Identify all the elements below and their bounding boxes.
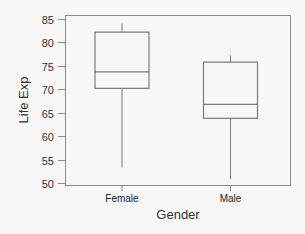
- box-plot-chart: 5055606570758085 FemaleMale Life Exp Gen…: [0, 0, 305, 234]
- x-axis-title: Gender: [156, 207, 200, 222]
- iqr-box: [95, 32, 149, 88]
- box-female: [95, 24, 149, 168]
- x-tick-label: Male: [220, 193, 242, 204]
- y-tick-label: 50: [42, 178, 54, 190]
- x-tick-label: Female: [105, 193, 139, 204]
- y-axis-title: Life Exp: [16, 77, 31, 124]
- y-tick-label: 80: [42, 37, 54, 49]
- iqr-box: [204, 62, 258, 118]
- boxes: [95, 24, 258, 180]
- y-tick-label: 70: [42, 84, 54, 96]
- y-tick-label: 85: [42, 14, 54, 26]
- plot-frame: [66, 16, 291, 186]
- y-tick-label: 55: [42, 155, 54, 167]
- y-tick-label: 75: [42, 61, 54, 73]
- x-axis: FemaleMale: [105, 186, 241, 205]
- y-tick-label: 65: [42, 108, 54, 120]
- y-axis: 5055606570758085: [42, 14, 66, 190]
- y-tick-label: 60: [42, 131, 54, 143]
- box-male: [204, 55, 258, 179]
